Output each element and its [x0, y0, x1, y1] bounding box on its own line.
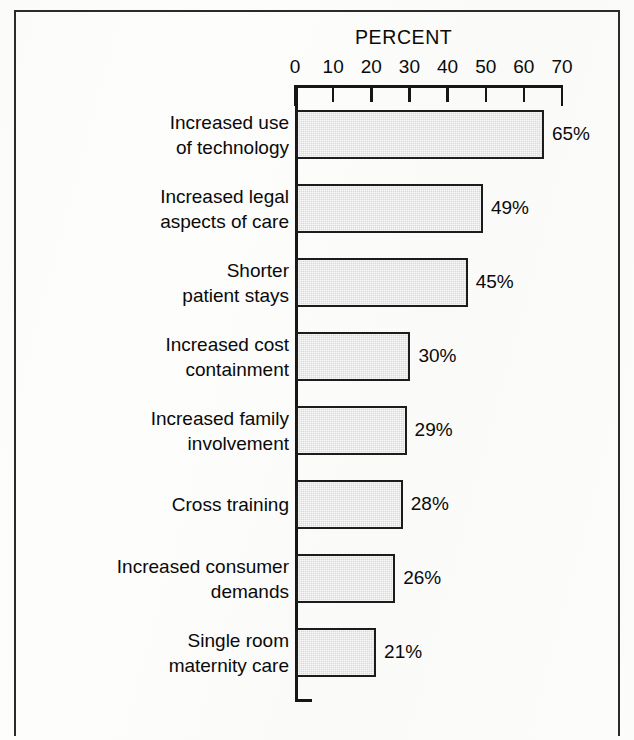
category-label-line: containment — [165, 357, 289, 382]
category-label-line: patient stays — [182, 283, 289, 308]
bar-value-label: 29% — [415, 419, 453, 441]
bar-value-label: 45% — [476, 271, 514, 293]
bar-value-label: 30% — [418, 345, 456, 367]
bar-value-label: 26% — [403, 567, 441, 589]
x-tick-label: 30 — [399, 56, 420, 78]
category-label: Shorterpatient stays — [182, 258, 289, 308]
category-label-line: demands — [117, 579, 289, 604]
bar-value-label: 49% — [491, 197, 529, 219]
category-label: Increased legalaspects of care — [160, 184, 289, 234]
x-tick-mark — [408, 85, 411, 102]
x-tick-label: 0 — [290, 56, 301, 78]
bar — [296, 480, 403, 529]
y-axis-line — [295, 85, 298, 702]
bar — [296, 554, 395, 603]
x-tick-label: 20 — [361, 56, 382, 78]
bar — [296, 332, 410, 381]
category-label-line: Increased consumer — [117, 554, 289, 579]
x-tick-label: 70 — [551, 56, 572, 78]
x-tick-label: 60 — [513, 56, 534, 78]
x-tick-label: 10 — [323, 56, 344, 78]
bar-value-label: 21% — [384, 641, 422, 663]
category-label-line: Increased family — [151, 406, 289, 431]
bar — [296, 628, 376, 677]
category-label: Increased familyinvolvement — [151, 406, 289, 456]
bar — [296, 110, 544, 159]
horizontal-bar-chart: PERCENT 010203040506070 65%49%45%30%29%2… — [0, 0, 634, 740]
category-label-line: of technology — [170, 135, 289, 160]
category-label-line: Single room — [169, 628, 289, 653]
category-label-line: aspects of care — [160, 209, 289, 234]
category-label: Increased costcontainment — [165, 332, 289, 382]
category-label-line: Cross training — [172, 492, 289, 517]
category-label: Increased useof technology — [170, 110, 289, 160]
category-label: Increased consumerdemands — [117, 554, 289, 604]
x-tick-mark — [485, 85, 488, 102]
bar-value-label: 65% — [552, 123, 590, 145]
x-tick-label: 50 — [475, 56, 496, 78]
category-label-line: Increased use — [170, 110, 289, 135]
category-label-line: maternity care — [169, 653, 289, 678]
bar — [296, 184, 483, 233]
x-tick-mark — [370, 85, 373, 102]
axis-title-percent: PERCENT — [355, 26, 452, 49]
y-axis-foot — [295, 699, 312, 702]
category-label-line: Increased legal — [160, 184, 289, 209]
x-tick-mark — [332, 85, 335, 102]
bar — [296, 258, 468, 307]
category-label-line: Shorter — [182, 258, 289, 283]
category-label-line: involvement — [151, 431, 289, 456]
category-label: Single roommaternity care — [169, 628, 289, 678]
x-tick-mark — [446, 85, 449, 102]
bar — [296, 406, 407, 455]
category-label: Cross training — [172, 492, 289, 517]
bar-value-label: 28% — [411, 493, 449, 515]
x-tick-mark — [523, 85, 526, 102]
x-tick-mark — [561, 85, 564, 106]
category-label-line: Increased cost — [165, 332, 289, 357]
x-tick-label: 40 — [437, 56, 458, 78]
chart-page: PERCENT 010203040506070 65%49%45%30%29%2… — [0, 0, 634, 740]
